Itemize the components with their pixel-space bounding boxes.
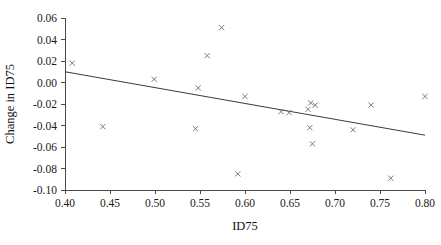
data-point	[219, 25, 224, 30]
data-point	[235, 171, 240, 176]
x-tick-label: 0.60	[235, 197, 255, 209]
x-tick-label: 0.45	[100, 197, 120, 209]
data-point	[422, 94, 427, 99]
x-axis-title: ID75	[232, 219, 258, 233]
data-point	[388, 176, 393, 181]
scatter-plot-figure: 0.060.040.020.00-0.02-0.04-0.06-0.08-0.1…	[0, 0, 441, 245]
x-tick-label: 0.55	[190, 197, 210, 209]
data-point	[100, 124, 105, 129]
y-tick-label: 0.04	[37, 34, 57, 46]
y-tick-label: -0.06	[33, 141, 57, 153]
data-point	[310, 141, 315, 146]
x-tick-label: 0.80	[415, 197, 435, 209]
data-point	[196, 85, 201, 90]
y-tick-label: -0.04	[33, 120, 57, 132]
y-tick-label: 0.02	[37, 55, 57, 67]
x-tick-label: 0.50	[145, 197, 165, 209]
data-point	[193, 126, 198, 131]
x-tick-label: 0.70	[325, 197, 345, 209]
chart-canvas: 0.060.040.020.00-0.02-0.04-0.06-0.08-0.1…	[0, 0, 441, 245]
data-point	[205, 53, 210, 58]
data-point	[307, 125, 312, 130]
data-point	[242, 94, 247, 99]
x-tick-label: 0.40	[55, 197, 75, 209]
data-point	[70, 61, 75, 66]
data-point	[305, 107, 310, 112]
data-point	[350, 127, 355, 132]
y-tick-label: 0.06	[37, 12, 57, 24]
data-markers	[70, 25, 428, 181]
data-point	[368, 102, 373, 107]
x-axis-ticks: 0.400.450.500.550.600.650.700.750.80	[55, 190, 435, 209]
y-axis-title: Change in ID75	[3, 64, 17, 144]
y-tick-label: -0.08	[33, 163, 57, 175]
trend-line	[65, 72, 425, 135]
y-tick-label: -0.10	[33, 184, 57, 196]
data-point	[152, 77, 157, 82]
x-tick-label: 0.65	[280, 197, 300, 209]
y-tick-label: -0.02	[33, 98, 57, 110]
y-tick-label: 0.00	[37, 77, 57, 89]
y-axis-ticks: 0.060.040.020.00-0.02-0.04-0.06-0.08-0.1…	[33, 12, 65, 196]
x-tick-label: 0.75	[370, 197, 390, 209]
